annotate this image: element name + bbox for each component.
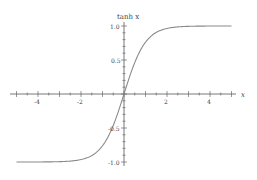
axes [10,22,236,166]
y-tick-label: 1.0 [110,23,120,30]
y-tick-label: -1.0 [108,159,120,166]
y-tick-label: 0.5 [111,57,121,64]
y-axis-label: tanh x [117,13,139,21]
x-tick-label: -4 [34,98,40,105]
x-tick-label: 4 [207,98,211,105]
x-tick-label: 2 [164,98,168,105]
tanh-plot: tanh x x -4 -2 2 4 1.0 0.5 -0.5 -1.0 [0,0,257,180]
x-tick-label: -2 [77,98,83,105]
y-tick-labels: 1.0 0.5 -0.5 -1.0 [108,23,121,166]
y-tick-label: -0.5 [108,125,120,132]
x-axis-label: x [241,91,245,99]
